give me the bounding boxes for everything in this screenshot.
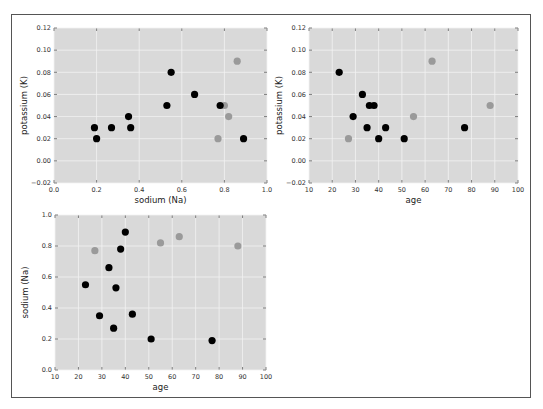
y-tick-label: 0.0 [42,366,52,374]
x-tick-label: 60 [168,373,176,381]
x-tick-label: 40 [121,373,129,381]
y-axis-label: sodium (Na) [20,267,30,319]
x-tick-label: 80 [215,373,223,381]
y-tick-label: 0.8 [42,242,52,250]
data-point [122,228,129,235]
x-tick-label: 10 [51,373,59,381]
x-tick-label: 70 [192,373,200,381]
data-point [91,247,98,254]
y-tick-label: 1.0 [42,211,52,219]
y-tick-label: 0.4 [42,304,52,312]
scatter-age-vs-sodium: 1020304050607080901000.00.20.40.60.81.0a… [0,0,543,409]
data-point [82,281,89,288]
x-tick-label: 100 [260,373,272,381]
y-tick-label: 0.2 [42,335,52,343]
data-point [112,284,119,291]
data-point [208,337,215,344]
data-point [148,335,155,342]
data-point [234,242,241,249]
x-tick-label: 50 [145,373,153,381]
x-tick-label: 90 [238,373,246,381]
plot-area [55,215,266,370]
data-point [157,239,164,246]
x-tick-label: 30 [98,373,106,381]
x-tick-label: 20 [74,373,82,381]
x-axis-label: age [153,382,169,392]
data-point [176,233,183,240]
data-point [129,311,136,318]
data-point [96,312,103,319]
data-point [105,264,112,271]
data-point [110,325,117,332]
data-point [117,246,124,253]
y-tick-label: 0.6 [42,273,52,281]
